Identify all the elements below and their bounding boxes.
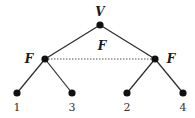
leaf-label-4: 4: [180, 101, 187, 114]
leaf-label-3: 3: [69, 101, 76, 114]
leaf-node-2: [123, 89, 130, 96]
leaf-node-1: [13, 89, 20, 96]
edge-root-right: [100, 25, 155, 59]
dotted-edge-label: F: [97, 39, 108, 53]
right-internal-label: F: [166, 52, 177, 66]
leaf-label-1: 1: [14, 101, 21, 114]
leaf-label-2: 2: [124, 101, 131, 114]
leaf-node-3: [68, 89, 75, 96]
leaf-node-4: [179, 89, 186, 96]
tree-diagram: V F F F 1 3 2 4: [0, 0, 195, 118]
root-label: V: [95, 5, 106, 19]
edge-left-leaf-3: [45, 59, 72, 93]
edge-right-leaf-2: [127, 59, 155, 93]
right-internal-node: [151, 55, 158, 62]
left-internal-node: [41, 55, 48, 62]
left-internal-label: F: [24, 52, 35, 66]
root-node: [96, 21, 103, 28]
edge-root-left: [45, 25, 100, 59]
